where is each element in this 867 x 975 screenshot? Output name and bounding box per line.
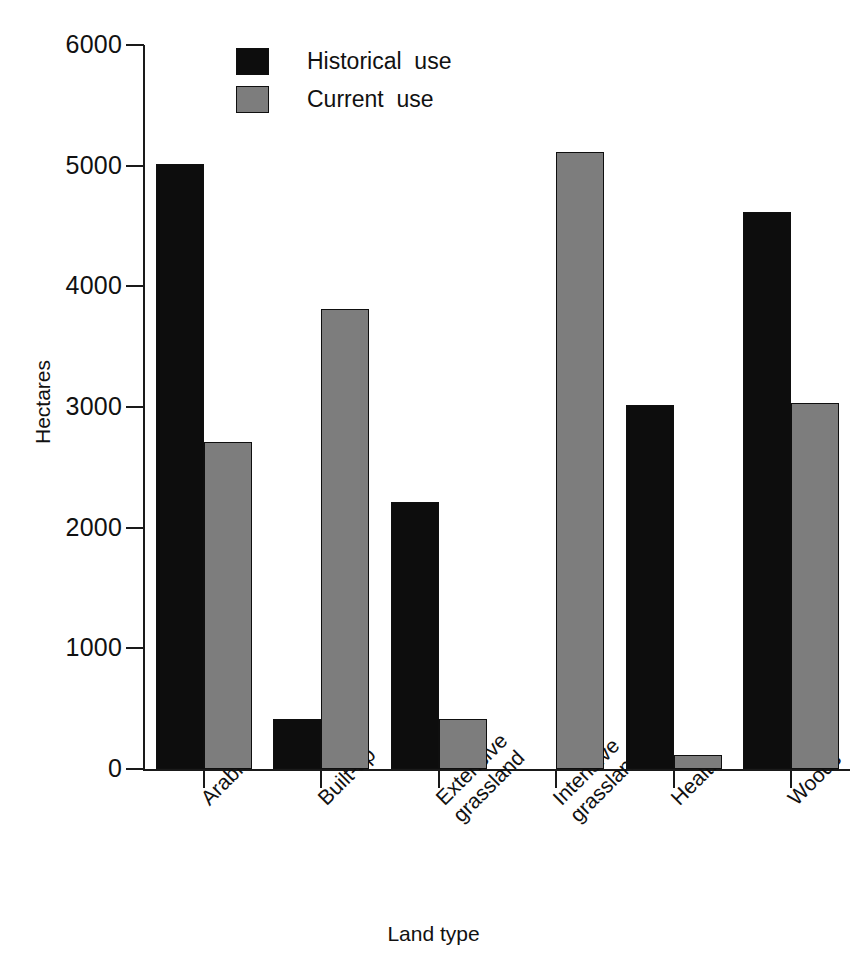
legend-item-label: Current use	[307, 86, 434, 113]
bar-current	[791, 403, 839, 769]
y-axis-tick	[126, 406, 144, 408]
y-axis-tick	[126, 768, 144, 770]
current-swatch	[236, 86, 269, 113]
y-axis-tick-label-wrap: 6000	[0, 32, 122, 58]
bar-current	[674, 755, 722, 769]
y-axis-tick-label-wrap: 2000	[0, 515, 122, 541]
y-axis-tick-label-wrap: 1000	[0, 635, 122, 661]
chart-legend: Historical useCurrent use	[236, 42, 451, 118]
bar-current	[321, 309, 369, 769]
bar-chart-figure: 0100020003000400050006000 Hectares Arabl…	[0, 0, 867, 975]
y-axis-tick	[126, 165, 144, 167]
bar-historical	[273, 719, 321, 769]
x-axis-title: Land type	[0, 922, 867, 946]
y-axis-tick-label: 2000	[14, 515, 122, 540]
y-axis-tick	[126, 285, 144, 287]
legend-item: Historical use	[236, 42, 451, 80]
y-axis-tick-label-wrap: 3000	[0, 394, 122, 420]
y-axis-tick-label: 4000	[14, 273, 122, 298]
legend-item-label: Historical use	[307, 48, 451, 75]
y-axis-tick	[126, 527, 144, 529]
y-axis-tick-label: 5000	[14, 153, 122, 178]
y-axis-tick	[126, 647, 144, 649]
y-axis-title: Hectares	[31, 322, 55, 482]
plot-area	[145, 40, 850, 769]
y-axis-tick	[126, 44, 144, 46]
bar-current	[556, 152, 604, 769]
y-axis-tick-label: 6000	[14, 32, 122, 57]
historical-swatch	[236, 48, 269, 75]
y-axis-tick-label-wrap: 0	[0, 756, 122, 782]
bar-current	[439, 719, 487, 769]
bar-current	[204, 442, 252, 769]
bar-historical	[391, 502, 439, 769]
y-axis-tick-label-wrap: 4000	[0, 273, 122, 299]
bar-historical	[743, 212, 791, 769]
y-axis-tick-label-wrap: 5000	[0, 153, 122, 179]
legend-item: Current use	[236, 80, 451, 118]
bar-historical	[626, 405, 674, 769]
y-axis-tick-label: 1000	[14, 635, 122, 660]
y-axis-tick-label: 0	[14, 756, 122, 781]
bar-historical	[156, 164, 204, 769]
